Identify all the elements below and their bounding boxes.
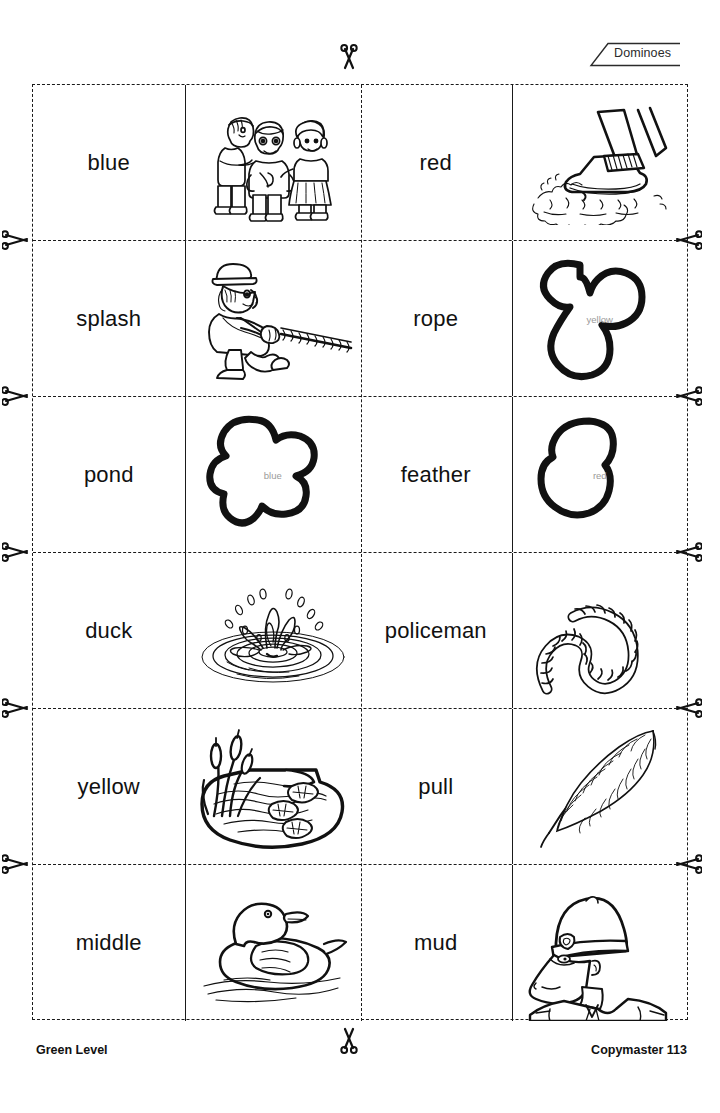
scissors-icon-left-4 [2,693,32,723]
word-label: red [420,150,452,176]
domino-picture-cell[interactable] [185,85,360,240]
scissors-icon-left-5 [2,849,32,879]
policeman-portrait-illustration [513,865,687,1021]
man-pulling-rope-illustration [186,241,360,396]
scissors-icon-left-1 [2,225,32,255]
table-row: blue [33,85,687,241]
domino-picture-cell[interactable]: yellow [512,241,687,396]
domino-word-cell[interactable]: duck [33,553,185,708]
footer-level-label: Green Level [36,1043,108,1057]
domino-word-cell[interactable]: mud [360,865,512,1021]
word-label: yellow [78,774,140,800]
scissors-icon-bottom [334,1027,364,1057]
domino-word-cell[interactable]: middle [33,865,185,1021]
three-children-illustration [186,85,360,240]
domino-picture-cell[interactable] [185,241,360,396]
word-label: rope [413,306,458,332]
domino-picture-cell[interactable] [185,865,360,1021]
boot-splashing-in-mud-illustration [513,85,687,240]
scissors-icon-left-2 [2,381,32,411]
domino-word-cell[interactable]: yellow [33,709,185,864]
table-row: yellow [33,709,687,865]
word-label: blue [88,150,130,176]
domino-word-cell[interactable]: rope [360,241,512,396]
blob-shape-illustration: red [513,397,687,552]
domino-picture-cell[interactable]: blue [185,397,360,552]
word-label: policeman [385,618,487,644]
domino-word-cell[interactable]: feather [360,397,512,552]
domino-word-cell[interactable]: pond [33,397,185,552]
word-label: mud [414,930,457,956]
vertical-cut-line [361,85,362,1021]
header-tag-label: Dominoes [614,46,671,60]
domino-word-cell[interactable]: policeman [360,553,512,708]
scissors-icon-left-3 [2,537,32,567]
scissors-icon-top [334,42,364,72]
table-row: splash [33,241,687,397]
word-label: feather [401,462,471,488]
dominoes-header-tag: Dominoes [588,42,680,67]
table-row: duck [33,553,687,709]
worksheet-page: Dominoes [0,0,720,1113]
footer-copymaster-label: Copymaster 113 [591,1043,687,1057]
domino-picture-cell[interactable] [512,85,687,240]
coiled-rope-illustration [513,553,687,708]
table-row: pond blue feather red [33,397,687,553]
word-label: splash [76,306,141,332]
duck-swimming-illustration [186,865,360,1021]
pond-with-reeds-illustration [186,709,360,864]
domino-picture-cell[interactable]: red [512,397,687,552]
water-splash-with-ripples-illustration [186,553,360,708]
domino-picture-cell[interactable] [512,553,687,708]
word-label: pond [84,462,134,488]
domino-word-cell[interactable]: splash [33,241,185,396]
domino-picture-cell[interactable] [185,709,360,864]
word-label: pull [418,774,453,800]
table-row: middle [33,865,687,1021]
feather-illustration [513,709,687,864]
domino-picture-cell[interactable] [512,865,687,1021]
domino-grid: blue [32,84,688,1020]
domino-picture-cell[interactable] [185,553,360,708]
blob-shape-illustration: blue [186,397,360,552]
domino-word-cell[interactable]: pull [360,709,512,864]
word-label: duck [85,618,132,644]
blob-shape-illustration: yellow [513,241,687,396]
domino-word-cell[interactable]: blue [33,85,185,240]
word-label: middle [76,930,142,956]
domino-picture-cell[interactable] [512,709,687,864]
domino-word-cell[interactable]: red [360,85,512,240]
